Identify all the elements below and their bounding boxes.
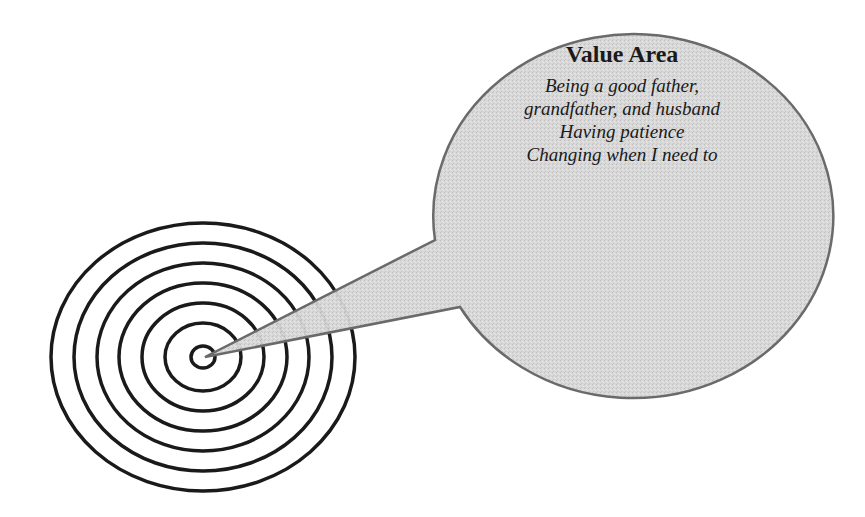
target-ring-5 — [142, 303, 264, 411]
target-ring-6 — [165, 323, 241, 391]
callout-title: Value Area — [462, 38, 782, 70]
callout-line-2: grandfather, and husband — [462, 97, 782, 120]
callout-content: Value Area Being a good father, grandfat… — [462, 38, 782, 166]
callout-line-1: Being a good father, — [462, 74, 782, 97]
target-ring-2 — [74, 243, 332, 471]
target-ring-4 — [119, 283, 287, 431]
target-ring-3 — [97, 263, 309, 451]
target-rings — [51, 223, 355, 491]
callout-line-4: Changing when I need to — [462, 143, 782, 166]
callout-line-3: Having patience — [462, 120, 782, 143]
